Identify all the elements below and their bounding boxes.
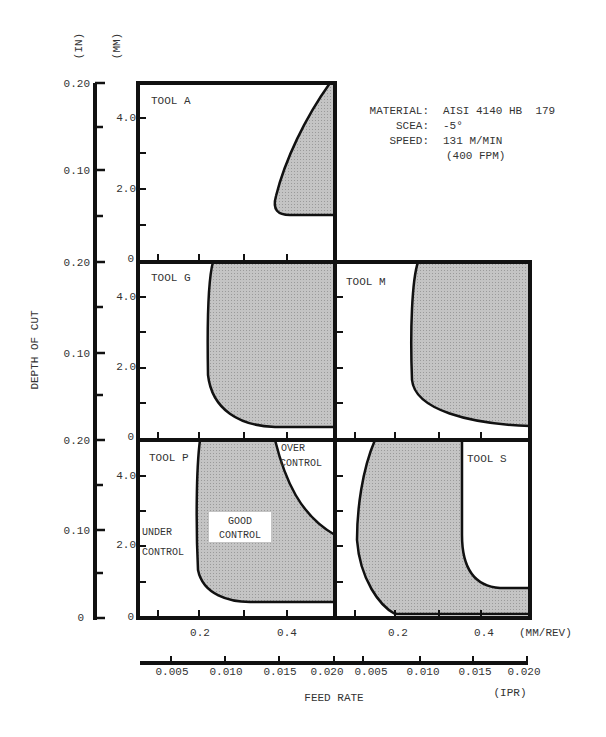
panel-title-tool-p: TOOL P [149,452,189,464]
chip-control-chart: (IN) (MM) DEPTH OF CUT 0.20 0.10 0.20 0.… [0,0,606,737]
svg-text:SPEED:: SPEED: [389,135,429,147]
mm-tick-label: 2.0 [116,183,136,195]
ipr-tick-label: 0.020 [310,666,343,678]
mm-tick-label: 0 [127,253,134,265]
inch-axis: 0.20 0.10 0.20 0.10 0.20 0.10 0 [64,78,105,624]
svg-text:AISI 4140 HB 179: AISI 4140 HB 179 [443,105,555,117]
panel-title-tool-g: TOOL G [151,272,191,284]
x-tick-label: 0.2 [190,627,210,639]
conditions-legend: MATERIAL: AISI 4140 HB 179 SCEA: -5° SPE… [370,105,556,162]
annotation-over: CONTROL [280,458,322,469]
y-unit-in: (IN) [73,33,85,59]
annotation-under: CONTROL [142,547,184,558]
annotation-under: UNDER [142,527,172,538]
ipr-tick-label: 0.015 [458,666,491,678]
ipr-tick-label: 0.015 [263,666,296,678]
annotation-over: OVER [281,443,305,454]
ipr-tick-label: 0.010 [209,666,242,678]
in-tick-label: 0.20 [64,78,90,90]
tool-g-region [208,262,335,427]
ipr-tick-label: 0.005 [155,666,188,678]
panel-title-tool-a: TOOL A [151,95,191,107]
mm-tick-label: 0 [127,611,134,623]
x-axis-title: FEED RATE [304,692,364,704]
tool-a-region [275,83,335,215]
in-tick-label: 0.10 [64,165,90,177]
x-tick-label: 0.4 [277,627,297,639]
mm-tick-label: 2.0 [116,539,136,551]
mm-tick-label: 2.0 [116,361,136,373]
mm-tick-label: 4.0 [116,470,136,482]
mm-tick-label: 4.0 [116,112,136,124]
tool-m-region [411,262,530,426]
x-unit-ipr: (IPR) [493,687,526,699]
y-axis-title: DEPTH OF CUT [29,310,41,390]
ipr-tick-label: 0.010 [406,666,439,678]
mm-axis-labels: 4.0 2.0 0 4.0 2.0 0 4.0 2.0 0 [116,112,136,623]
in-tick-label: 0.20 [64,435,90,447]
in-tick-label: 0.10 [64,525,90,537]
in-tick-label: 0.20 [64,257,90,269]
annotation-good: CONTROL [219,530,261,541]
in-tick-label: 0 [77,612,84,624]
tool-s-region [357,440,530,614]
annotation-good: GOOD [228,516,252,527]
svg-text:(400 FPM): (400 FPM) [446,150,505,162]
panel-title-tool-s: TOOL S [467,453,507,465]
in-tick-label: 0.10 [64,348,90,360]
mm-tick-label: 4.0 [116,291,136,303]
ipr-axis: 0.005 0.010 0.015 0.020 0.005 0.010 0.01… [140,656,541,678]
x-tick-label: 0.2 [388,627,408,639]
svg-text:MATERIAL:: MATERIAL: [370,105,429,117]
panel-title-tool-m: TOOL M [346,276,386,288]
svg-text:-5°: -5° [443,120,463,132]
ipr-tick-label: 0.020 [507,666,540,678]
svg-text:131 M/MIN: 131 M/MIN [443,135,502,147]
x-unit-mm-rev: (MM/REV) [519,627,572,639]
y-unit-mm: (MM) [111,33,123,59]
x-tick-label: 0.4 [474,627,494,639]
ipr-tick-label: 0.005 [354,666,387,678]
svg-text:SCEA:: SCEA: [396,120,429,132]
mm-tick-label: 0 [127,431,134,443]
